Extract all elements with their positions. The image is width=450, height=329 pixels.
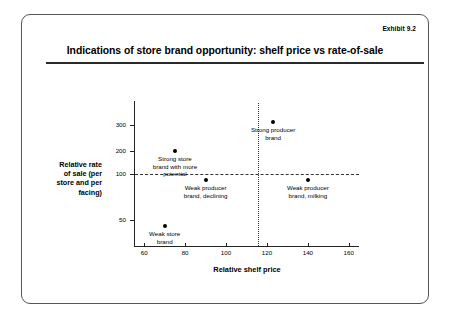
x-tick-label: 120 bbox=[255, 249, 279, 256]
data-point bbox=[204, 178, 208, 182]
x-tick bbox=[349, 243, 350, 247]
y-tick-label-text: 50 bbox=[100, 216, 126, 223]
y-tick-label: 200 bbox=[98, 147, 126, 155]
y-tick-label-text: 200 bbox=[100, 147, 126, 154]
y-tick bbox=[130, 125, 134, 126]
data-point-label: Strong store brand with more potential bbox=[115, 155, 235, 178]
x-tick-label: 80 bbox=[173, 249, 197, 256]
x-tick bbox=[267, 243, 268, 247]
x-axis-line bbox=[134, 246, 359, 247]
data-point bbox=[306, 178, 310, 182]
y-axis-title: Relative rate of sale (per store and per… bbox=[30, 160, 102, 197]
x-axis-title: Relative shelf price bbox=[134, 265, 360, 274]
x-tick bbox=[226, 243, 227, 247]
scatter-chart: 30020010050 6080100120140160 Strong stor… bbox=[22, 15, 430, 305]
data-point-label: Strong producer brand bbox=[213, 126, 333, 141]
x-tick-label: 60 bbox=[132, 249, 156, 256]
x-tick-label: 100 bbox=[214, 249, 238, 256]
y-tick-label: 50 bbox=[98, 216, 126, 224]
y-tick-label-text: 300 bbox=[100, 121, 126, 128]
vertical-reference-line bbox=[258, 103, 259, 246]
x-tick-label: 140 bbox=[296, 249, 320, 256]
data-point-label: Weak store brand bbox=[105, 230, 225, 245]
y-tick bbox=[130, 151, 134, 152]
data-point bbox=[271, 120, 275, 124]
y-tick-label: 300 bbox=[98, 121, 126, 129]
data-point bbox=[163, 224, 167, 228]
slide-frame: Exhibit 9.2 Indications of store brand o… bbox=[21, 14, 429, 304]
x-tick bbox=[308, 243, 309, 247]
data-point-label: Weak producer brand, milking bbox=[248, 184, 368, 199]
y-tick bbox=[130, 220, 134, 221]
x-tick-label: 160 bbox=[337, 249, 361, 256]
data-point bbox=[173, 149, 177, 153]
